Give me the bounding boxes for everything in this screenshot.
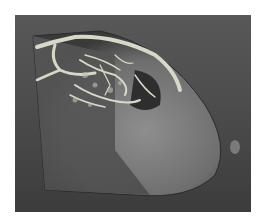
- volume-render: [15, 15, 251, 212]
- nipple: [230, 140, 240, 154]
- render-viewport: [15, 15, 251, 212]
